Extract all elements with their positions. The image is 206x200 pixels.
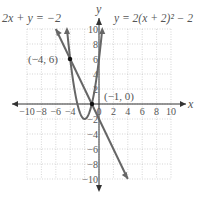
point-intersection-2	[90, 102, 94, 106]
svg-text:8: 8	[93, 39, 98, 50]
svg-text:4: 4	[125, 106, 130, 117]
svg-text:−8: −8	[36, 106, 47, 117]
svg-text:10: 10	[88, 24, 98, 35]
svg-text:10: 10	[166, 106, 176, 117]
svg-text:−8: −8	[87, 159, 98, 170]
svg-text:−10: −10	[82, 174, 98, 185]
svg-text:−4: −4	[65, 106, 76, 117]
line-equation-label: 2x + y = −2	[2, 11, 61, 25]
point-intersection-1	[68, 57, 72, 61]
x-axis-label: x	[187, 97, 194, 111]
svg-text:6: 6	[93, 54, 98, 65]
y-axis-label: y	[95, 2, 102, 16]
svg-text:−4: −4	[87, 129, 98, 140]
parabola-equation-label: y = 2(x + 2)² − 2	[113, 12, 193, 25]
svg-text:2: 2	[111, 106, 116, 117]
point2-label: (−1, 0)	[104, 90, 134, 103]
svg-text:8: 8	[154, 106, 159, 117]
svg-text:−6: −6	[87, 144, 98, 155]
graph: −10−8−6−40246810108642−2−4−6−8−10 2x + y…	[0, 0, 206, 200]
svg-text:6: 6	[140, 106, 145, 117]
svg-text:−6: −6	[50, 106, 61, 117]
point1-label: (−4, 6)	[28, 53, 58, 66]
svg-text:−10: −10	[19, 106, 35, 117]
